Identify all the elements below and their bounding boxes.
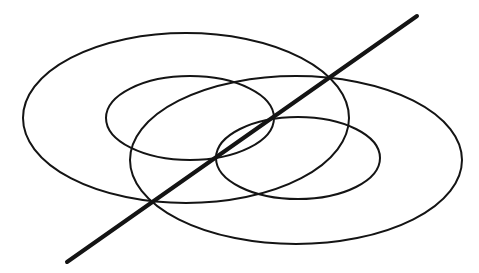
diagonal-axis-line: [67, 16, 417, 262]
small-right-ellipse: [216, 117, 380, 199]
ellipses-diagram: [0, 0, 479, 273]
